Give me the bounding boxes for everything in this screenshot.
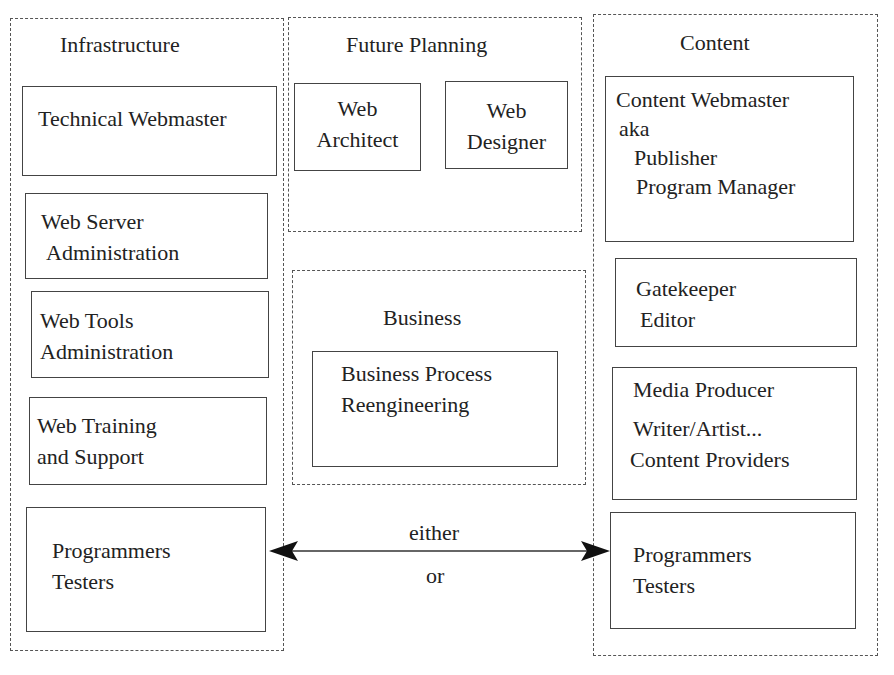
bidirectional-arrow-icon: [0, 0, 894, 675]
connector-label-either: either: [409, 521, 459, 545]
connector-label-or: or: [426, 564, 444, 588]
